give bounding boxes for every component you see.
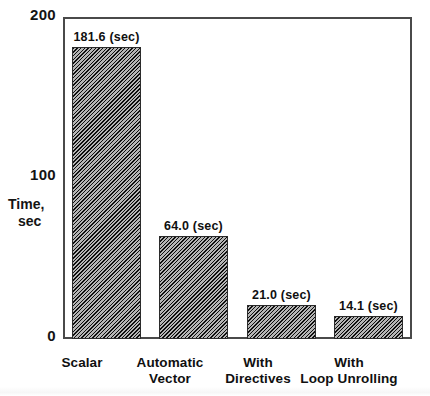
y-axis-title-line2: sec — [2, 213, 58, 230]
bar-with-directives — [247, 305, 316, 339]
value-label-automatic-vector: 64.0 (sec) — [150, 219, 238, 233]
x-label-automatic-vector: Automatic Vector — [120, 355, 220, 387]
x-label-scalar: Scalar — [32, 355, 132, 371]
y-axis-title: Time, sec — [2, 196, 58, 230]
y-tick-label-200: 200 — [4, 6, 56, 23]
value-label-with-loop-unrolling: 14.1 (sec) — [325, 299, 413, 313]
value-label-with-directives: 21.0 (sec) — [238, 288, 326, 302]
bar-chart: 200 100 0 Time, sec 181.6 (sec) 64.0 (se… — [0, 0, 430, 396]
bar-automatic-vector — [159, 236, 228, 339]
bar-scalar — [72, 47, 141, 339]
value-label-scalar: 181.6 (sec) — [63, 30, 151, 44]
y-tick-label-0: 0 — [4, 327, 56, 344]
x-label-with-directives-line1: With — [243, 355, 273, 370]
x-label-with-loop-unrolling-line1: With — [334, 355, 364, 370]
bar-with-loop-unrolling — [334, 316, 403, 339]
x-label-automatic-vector-line2: Vector — [149, 371, 191, 386]
x-label-with-loop-unrolling: With Loop Unrolling — [291, 355, 407, 387]
x-label-scalar-line1: Scalar — [61, 355, 102, 370]
y-tick-label-100: 100 — [4, 166, 56, 183]
x-label-with-loop-unrolling-line2: Loop Unrolling — [300, 371, 397, 386]
y-axis-title-line1: Time, — [2, 196, 58, 213]
scan-artifact — [0, 387, 430, 396]
x-label-with-directives-line2: Directives — [225, 371, 291, 386]
x-label-automatic-vector-line1: Automatic — [137, 355, 204, 370]
